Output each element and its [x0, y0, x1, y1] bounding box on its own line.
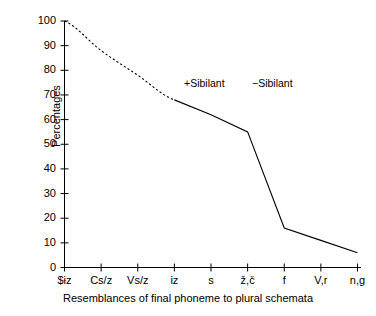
y-tick-label: 40: [22, 163, 56, 174]
chart-figure: Percentages Resemblances of final phonem…: [0, 0, 376, 316]
y-tick-label: 50: [22, 138, 56, 149]
annotation-minus-sibilant: −Sibilant: [252, 78, 293, 89]
y-tick-label: 60: [22, 114, 56, 125]
y-tick-label: 30: [22, 188, 56, 199]
y-tick-label: 20: [22, 212, 56, 223]
y-tick-label: 10: [22, 237, 56, 248]
x-tick-label: n,g: [328, 274, 376, 286]
data-line-dashed-segment: [65, 21, 175, 100]
data-line-solid-segment: [174, 100, 357, 253]
y-tick-label: 70: [22, 89, 56, 100]
y-tick-label: 80: [22, 64, 56, 75]
y-tick-label: 0: [22, 262, 56, 273]
y-tick-label: 90: [22, 40, 56, 51]
annotation-plus-sibilant: +Sibilant: [184, 78, 225, 89]
y-tick-label: 100: [22, 15, 56, 26]
x-axis-title: Resemblances of final phoneme to plural …: [0, 292, 376, 304]
